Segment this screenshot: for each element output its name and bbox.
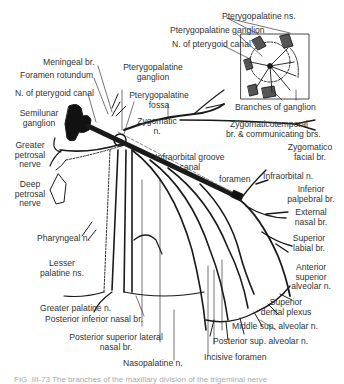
label-superior-labial-br: Superior labial br. [284, 234, 334, 253]
label-meningeal-br: Meningeal br. [43, 58, 95, 68]
label-zygomatic-n: Zygomatic n. [134, 117, 180, 136]
label-deep-petrosal-nerve: Deep petrosal nerve [10, 180, 50, 209]
label-foramen: foramen [219, 175, 251, 185]
label-n-of-pterygoid-canal: N. of pterygoid canal [15, 89, 94, 99]
label-superior-dental-plexus: Superior dental plexus [256, 298, 316, 317]
label-pterygopalatine-ganglion: Pterygopalatine ganglion [120, 63, 186, 82]
label-inset-n-of-pterygoid-canal: N. of pterygoid canal [172, 40, 251, 50]
label-nasopalatine-n: Nasopalatine n. [123, 359, 183, 369]
label-anterior-superior-alveolar-n: Anterior superior alveolar n. [286, 263, 336, 292]
label-pterygopalatine-fossa: Pterygopalatine fossa [126, 91, 192, 110]
label-inset-pterygopalatine-ganglion: Pterygopalatine ganglion [170, 26, 265, 36]
label-greater-petrosal-nerve: Greater petrosal nerve [10, 141, 50, 170]
figure-caption: FIG. III-73 The branches of the maxillar… [14, 375, 267, 384]
label-inset-branches-of-ganglion: Branches of ganglion [235, 103, 316, 113]
semilunar-ganglion-shape [65, 104, 91, 140]
label-posterior-superior-lateral-nasal-br: Posterior superior lateral nasal br. [62, 333, 170, 352]
label-zygomaticofacial: Zygomatico facial br. [280, 143, 340, 162]
label-lesser-palatine-ns: Lesser palatine ns. [36, 259, 88, 278]
label-infraorbital-n: Infraorbital n. [263, 172, 313, 182]
label-incisive-foramen: Incisive foramen [204, 353, 267, 363]
nerve-diagram-figure: Pterygopalatine ns. Pterygopalatine gang… [0, 0, 344, 384]
label-infraorbital-groove-canal: Infraorbital groove canal [150, 153, 230, 172]
label-foramen-rotundum: Foramen rotundum [20, 71, 93, 81]
label-posterior-sup-alveolar-n: Posterior sup. alveolar n. [213, 337, 308, 347]
label-inset-pterygopalatine-ns: Pterygopalatine ns. [222, 12, 296, 22]
label-posterior-inferior-nasal-br: Posterior inferior nasal br. [45, 315, 143, 325]
label-zygomaticotemporal: Zygomaticotemporal br. & communicating b… [230, 120, 321, 139]
label-middle-sup-alveolar-n: Middle sup. alveolar n. [232, 322, 318, 332]
label-external-nasal-br: External nasal br. [286, 208, 336, 227]
label-pharyngeal-n: Pharyngeal n. [37, 234, 90, 244]
label-inferior-palpebral-br: Inferior palpebral br. [278, 185, 344, 204]
label-greater-palatine-n: Greater palatine n. [40, 304, 111, 314]
label-semilunar-ganglion: Semilunar ganglion [14, 109, 64, 128]
